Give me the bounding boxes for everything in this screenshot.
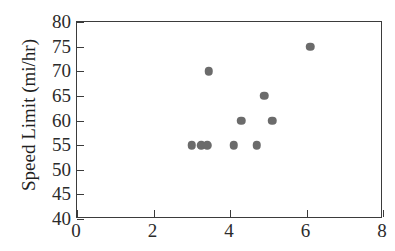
y-tick-label-45: 45 <box>52 184 71 203</box>
x-tick-label-8: 8 <box>377 221 387 240</box>
x-tick-8 <box>383 210 384 217</box>
y-tick-label-70: 70 <box>52 61 71 80</box>
x-tick-label-2: 2 <box>148 221 158 240</box>
y-tick-label-65: 65 <box>52 86 71 105</box>
y-tick-label-75: 75 <box>52 37 71 56</box>
y-tick-label-80: 80 <box>52 12 71 31</box>
data-point <box>203 141 212 150</box>
y-tick-label-50: 50 <box>52 160 71 179</box>
data-point <box>237 116 246 125</box>
y-tick-label-60: 60 <box>52 111 71 130</box>
x-tick-label-0: 0 <box>71 221 81 240</box>
x-tick-4 <box>230 210 231 217</box>
y-tick-60 <box>77 121 84 122</box>
y-tick-45 <box>77 194 84 195</box>
y-tick-70 <box>77 71 84 72</box>
y-tick-65 <box>77 96 84 97</box>
x-tick-0 <box>77 210 78 217</box>
x-tick-2 <box>154 210 155 217</box>
data-point <box>253 141 262 150</box>
y-tick-label-40: 40 <box>52 209 71 228</box>
x-tick-6 <box>307 210 308 217</box>
data-point <box>306 42 315 51</box>
y-tick-label-55: 55 <box>52 135 71 154</box>
y-tick-80 <box>77 22 84 23</box>
y-tick-75 <box>77 47 84 48</box>
data-point <box>260 92 269 101</box>
data-point <box>205 67 214 76</box>
x-tick-label-6: 6 <box>301 221 311 240</box>
x-tick-label-4: 4 <box>224 221 234 240</box>
data-point <box>230 141 239 150</box>
plot-area <box>76 21 382 218</box>
y-axis-tick-labels: 404550556065707580 <box>0 0 71 251</box>
data-point <box>268 116 277 125</box>
scatter-plot-figure: Speed Limit (mi/hr) 404550556065707580 0… <box>0 0 395 251</box>
y-tick-55 <box>77 145 84 146</box>
data-point <box>188 141 197 150</box>
y-tick-50 <box>77 170 84 171</box>
